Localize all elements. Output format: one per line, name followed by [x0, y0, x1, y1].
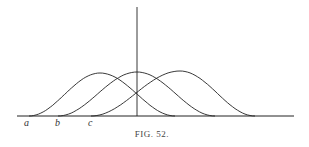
figure-canvas: a b c FIG. 52. [0, 0, 309, 147]
label-b: b [55, 117, 60, 128]
figure-caption: FIG. 52. [135, 129, 169, 139]
label-c: c [88, 117, 93, 128]
label-a: a [24, 117, 29, 128]
bell-curves [29, 71, 255, 116]
curve-a [29, 73, 175, 116]
